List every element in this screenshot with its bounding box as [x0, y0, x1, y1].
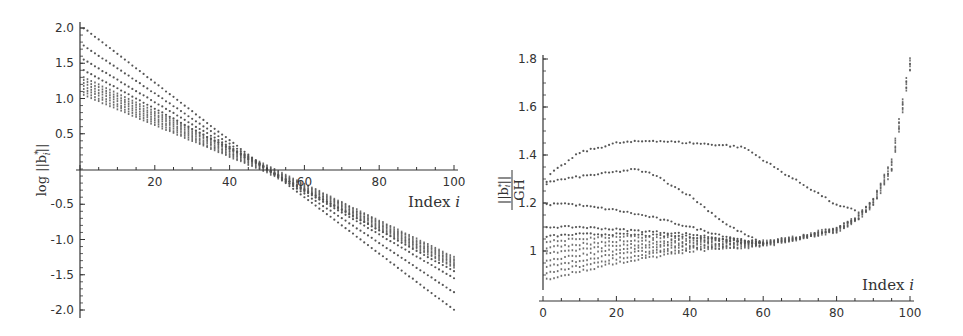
left-x-axis-title: Index i: [408, 193, 460, 211]
svg-text:60: 60: [756, 306, 771, 320]
svg-text:1.4: 1.4: [518, 148, 537, 162]
svg-text:60: 60: [297, 175, 312, 189]
svg-text:1.6: 1.6: [518, 100, 537, 114]
svg-text:1.8: 1.8: [518, 52, 537, 66]
svg-text:2.0: 2.0: [55, 21, 74, 35]
svg-text:1: 1: [529, 244, 537, 258]
svg-text:1.5: 1.5: [55, 56, 74, 70]
right-x-axis-title: Index i: [862, 276, 914, 294]
svg-text:0: 0: [539, 306, 547, 320]
left-y-axis-title: log ||b*i||: [33, 144, 52, 197]
right-data-points: [546, 57, 911, 280]
svg-text:40: 40: [222, 175, 237, 189]
left-data-points: [83, 27, 455, 311]
figure: 204060801002.01.51.00.5-0.5-1.0-1.5-2.0 …: [0, 0, 963, 336]
svg-text:-2.0: -2.0: [51, 303, 74, 317]
svg-text:-1.5: -1.5: [51, 268, 74, 282]
svg-text:-1.0: -1.0: [51, 233, 74, 247]
svg-text:40: 40: [682, 306, 697, 320]
svg-text:1.0: 1.0: [55, 92, 74, 106]
svg-text:GH: GH: [512, 179, 527, 201]
svg-text:20: 20: [147, 175, 162, 189]
svg-text:100: 100: [443, 175, 466, 189]
svg-text:80: 80: [372, 175, 387, 189]
svg-text:20: 20: [609, 306, 624, 320]
left-chart: 204060801002.01.51.00.5-0.5-1.0-1.5-2.0 …: [33, 21, 465, 318]
svg-text:-0.5: -0.5: [51, 197, 74, 211]
right-axes: 0204060801001.81.61.41.21: [518, 52, 922, 320]
svg-text:100: 100: [899, 306, 922, 320]
right-chart: 0204060801001.81.61.41.21 Index i ||b*i|…: [496, 52, 921, 320]
svg-text:0.5: 0.5: [55, 127, 74, 141]
svg-text:||b*i||: ||b*i||: [496, 176, 512, 204]
svg-text:80: 80: [829, 306, 844, 320]
